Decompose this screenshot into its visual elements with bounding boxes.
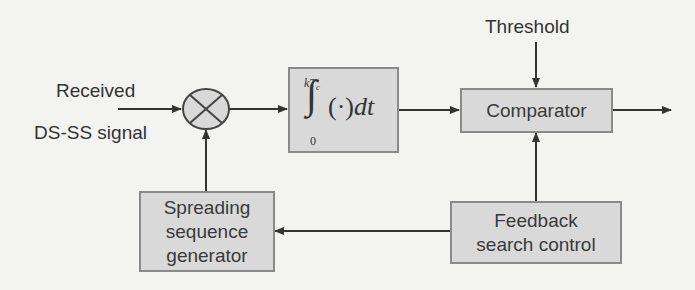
integral-expression: kTc ∫ 0 (·)dt (290, 69, 397, 151)
input-label-signal: DS-SS signal (34, 122, 147, 144)
integral-sign-icon: ∫ (306, 83, 317, 107)
feedback-label-line1: Feedback (494, 209, 577, 233)
generator-label-line1: Spreading (164, 196, 251, 220)
spreading-sequence-generator-block: Spreading sequence generator (139, 191, 275, 272)
generator-label-line3: generator (166, 244, 247, 268)
threshold-label: Threshold (485, 16, 570, 38)
integrator-block: kTc ∫ 0 (·)dt (288, 67, 399, 153)
input-label-received: Received (56, 80, 135, 102)
integrand: (·)dt (328, 95, 374, 119)
integral-lower-limit: 0 (310, 129, 316, 153)
feedback-search-control-block: Feedback search control (450, 201, 622, 264)
generator-label-line2: sequence (166, 220, 248, 244)
feedback-label-line2: search control (476, 233, 595, 257)
comparator-block: Comparator (460, 88, 613, 133)
comparator-label: Comparator (486, 99, 586, 123)
